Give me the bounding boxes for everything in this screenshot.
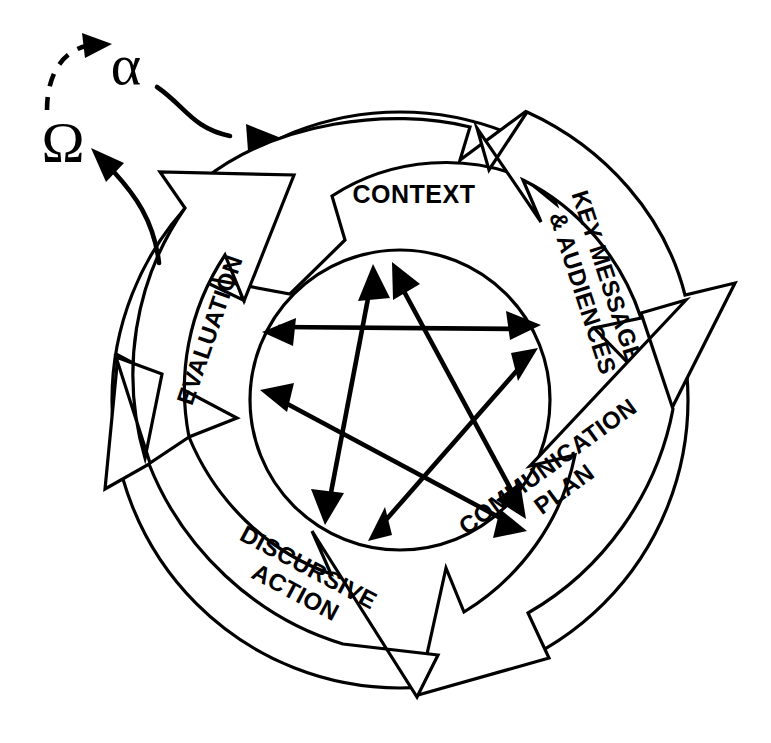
inner-arrow-5 xyxy=(368,348,538,541)
context-label: CONTEXT xyxy=(353,180,476,208)
omega-to-alpha-connector xyxy=(47,33,112,110)
inner-arrow-3 xyxy=(392,262,526,519)
cycle-to-omega-connector xyxy=(91,148,159,263)
inner-arrow-2-line xyxy=(329,288,370,503)
inner-arrow-5-head-bottom xyxy=(368,507,392,541)
inner-arrow-2-head-top xyxy=(358,264,390,301)
inner-arrow-1-head-left xyxy=(262,318,296,346)
inner-arrow-1 xyxy=(262,311,541,346)
inner-arrow-1-line xyxy=(278,327,521,329)
cycle-to-omega-curve xyxy=(114,172,159,263)
diagram-canvas: CONTEXT KEY MESSAGES & AUDIENCES COMMUNI… xyxy=(0,0,771,743)
alpha-to-cycle-curve xyxy=(157,87,230,136)
cycle-diagram: CONTEXT KEY MESSAGES & AUDIENCES COMMUNI… xyxy=(0,0,771,743)
omega-symbol: Ω xyxy=(41,110,84,175)
omega-to-alpha-arrowhead xyxy=(82,33,112,58)
alpha-to-cycle-connector xyxy=(157,87,281,151)
omega-to-alpha-curve xyxy=(47,46,86,110)
inner-arrow-3-line xyxy=(400,284,514,495)
inner-arrow-2 xyxy=(311,264,390,525)
inner-star-arrows xyxy=(260,262,541,541)
alpha-symbol: α xyxy=(111,32,141,97)
inner-arrow-2-head-bottom xyxy=(311,489,344,525)
inner-arrow-4-head-left xyxy=(260,383,294,412)
